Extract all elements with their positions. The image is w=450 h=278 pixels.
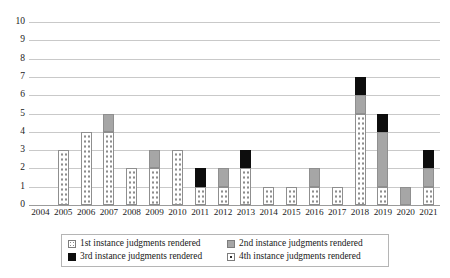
x-axis-tick-label: 2020: [396, 207, 414, 217]
stacked-bar-chart: 012345678910 200420052006200720082009201…: [0, 0, 450, 278]
x-tick-slot: 2013: [234, 206, 257, 222]
bar-segment[interactable]: [81, 132, 92, 205]
x-axis-tick-label: 2007: [100, 207, 118, 217]
bar-segment[interactable]: [355, 77, 366, 95]
stacked-bar[interactable]: [309, 168, 320, 205]
bar-segment[interactable]: [286, 187, 297, 205]
legend-item[interactable]: 2nd instance judgments rendered: [227, 238, 382, 249]
x-tick-slot: 2006: [75, 206, 98, 222]
bar-segment[interactable]: [423, 168, 434, 186]
stacked-bar[interactable]: [81, 132, 92, 205]
bar-segment[interactable]: [149, 168, 160, 205]
x-axis-tick-label: 2006: [77, 207, 95, 217]
bar-segment[interactable]: [195, 168, 206, 186]
bar-slot: [52, 22, 75, 205]
bar-slot: [257, 22, 280, 205]
legend-label: 1st instance judgments rendered: [80, 238, 201, 249]
stacked-bar[interactable]: [218, 168, 229, 205]
x-axis-tick-label: 2010: [168, 207, 186, 217]
x-axis-tick-label: 2014: [260, 207, 278, 217]
stacked-bar[interactable]: [195, 168, 206, 205]
x-axis-tick-label: 2015: [282, 207, 300, 217]
x-axis-tick-label: 2017: [328, 207, 346, 217]
x-axis-tick-label: 2004: [31, 207, 49, 217]
stacked-bar[interactable]: [332, 187, 343, 205]
bar-slot: [29, 22, 52, 205]
bar-segment[interactable]: [172, 150, 183, 205]
bar-segment[interactable]: [126, 168, 137, 205]
legend-item[interactable]: 1st instance judgments rendered: [68, 238, 223, 249]
bar-slot: [371, 22, 394, 205]
x-axis-tick-label: 2008: [123, 207, 141, 217]
plot-canvas: [29, 22, 440, 205]
plot-area: 012345678910 200420052006200720082009201…: [0, 0, 450, 228]
bar-slot: [75, 22, 98, 205]
bar-slot: [349, 22, 372, 205]
y-axis-tick-label: 9: [20, 36, 25, 46]
y-axis-tick-label: 6: [20, 90, 25, 100]
stacked-bar[interactable]: [149, 150, 160, 205]
x-tick-slot: 2015: [280, 206, 303, 222]
bar-segment[interactable]: [240, 168, 251, 205]
bar-segment[interactable]: [103, 114, 114, 132]
stacked-bar[interactable]: [240, 150, 251, 205]
bar-segment[interactable]: [423, 150, 434, 168]
x-axis-tick-label: 2021: [419, 207, 437, 217]
x-axis-tick-label: 2013: [237, 207, 255, 217]
x-axis-tick-label: 2011: [191, 207, 209, 217]
bar-segment[interactable]: [149, 150, 160, 168]
x-axis-tick-label: 2016: [305, 207, 323, 217]
y-axis-tick-label: 8: [20, 54, 25, 64]
bar-segment[interactable]: [240, 150, 251, 168]
y-axis-tick-label: 0: [20, 200, 25, 210]
x-tick-slot: 2009: [143, 206, 166, 222]
bar-segment[interactable]: [332, 187, 343, 205]
bar-segment[interactable]: [309, 187, 320, 205]
bar-segment[interactable]: [263, 187, 274, 205]
y-axis-tick-label: 5: [20, 109, 25, 119]
bar-segment[interactable]: [58, 150, 69, 205]
bar-slot: [417, 22, 440, 205]
bar-segment[interactable]: [377, 187, 388, 205]
legend-label: 2nd instance judgments rendered: [239, 238, 363, 249]
bar-segment[interactable]: [218, 187, 229, 205]
x-tick-slot: 2008: [120, 206, 143, 222]
bar-slot: [143, 22, 166, 205]
bar-segment[interactable]: [423, 187, 434, 205]
bar-segment[interactable]: [400, 187, 411, 205]
legend-label: 4th instance judgments rendered: [239, 251, 361, 262]
x-tick-slot: 2010: [166, 206, 189, 222]
x-tick-slot: 2012: [212, 206, 235, 222]
bar-segment[interactable]: [377, 114, 388, 132]
bar-series-container: [29, 22, 440, 205]
bar-segment[interactable]: [103, 132, 114, 205]
x-axis-tick-label: 2019: [374, 207, 392, 217]
stacked-bar[interactable]: [263, 187, 274, 205]
bar-segment[interactable]: [309, 168, 320, 186]
bar-segment[interactable]: [195, 187, 206, 205]
y-axis: 012345678910: [0, 0, 28, 228]
bar-segment[interactable]: [355, 114, 366, 206]
stacked-bar[interactable]: [355, 77, 366, 205]
stacked-bar[interactable]: [126, 168, 137, 205]
bar-slot: [97, 22, 120, 205]
legend-item[interactable]: 4th instance judgments rendered: [227, 251, 382, 262]
x-tick-slot: 2018: [349, 206, 372, 222]
stacked-bar[interactable]: [58, 150, 69, 205]
bar-slot: [212, 22, 235, 205]
bar-segment[interactable]: [218, 168, 229, 186]
legend-item[interactable]: 3rd instance judgments rendered: [68, 251, 223, 262]
x-tick-slot: 2005: [52, 206, 75, 222]
stacked-bar[interactable]: [103, 114, 114, 205]
x-tick-slot: 2004: [29, 206, 52, 222]
stacked-bar[interactable]: [172, 150, 183, 205]
stacked-bar[interactable]: [423, 150, 434, 205]
legend-label: 3rd instance judgments rendered: [80, 251, 202, 262]
stacked-bar[interactable]: [377, 114, 388, 205]
bar-segment[interactable]: [377, 132, 388, 187]
stacked-bar[interactable]: [400, 187, 411, 205]
stacked-bar[interactable]: [286, 187, 297, 205]
bar-slot: [234, 22, 257, 205]
bar-slot: [166, 22, 189, 205]
bar-segment[interactable]: [355, 95, 366, 113]
